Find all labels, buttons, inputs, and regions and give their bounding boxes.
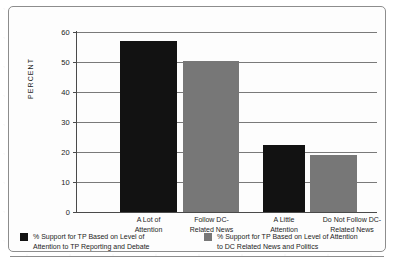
legend-entry-dc-news: % Support for TP Based on Level of Atten… xyxy=(204,232,394,251)
legend-swatch-black-icon xyxy=(20,233,28,241)
bar-do-not-follow-dc-related-news[interactable] xyxy=(310,155,357,212)
y-tick-label-20: 20 xyxy=(61,148,70,157)
legend-divider xyxy=(10,256,384,257)
gridline-60: 60 xyxy=(77,32,377,33)
tick-mark-60 xyxy=(73,32,77,33)
gridline-0-baseline: 0 xyxy=(77,212,377,213)
legend-label-tp-reporting: % Support for TP Based on Level of Atten… xyxy=(33,232,150,251)
legend-label-dc-news: % Support for TP Based on Level of Atten… xyxy=(217,232,358,251)
bar-follow-dc-related-news[interactable] xyxy=(183,61,239,213)
legend-swatch-gray-icon xyxy=(204,233,212,241)
tick-mark-10 xyxy=(73,182,77,183)
bar-a-little-attention[interactable] xyxy=(263,145,305,213)
tick-mark-30 xyxy=(73,122,77,123)
tick-mark-20 xyxy=(73,152,77,153)
legend-entry-tp-reporting: % Support for TP Based on Level of Atten… xyxy=(20,232,200,251)
y-tick-label-10: 10 xyxy=(61,178,70,187)
y-tick-label-50: 50 xyxy=(61,58,70,67)
y-tick-label-40: 40 xyxy=(61,88,70,97)
tick-mark-0 xyxy=(73,212,77,213)
y-tick-label-0: 0 xyxy=(66,208,70,217)
tick-mark-50 xyxy=(73,62,77,63)
y-tick-label-30: 30 xyxy=(61,118,70,127)
tick-mark-40 xyxy=(73,92,77,93)
bar-a-lot-of-attention[interactable] xyxy=(120,41,177,212)
y-axis-title: PERCENT xyxy=(27,58,34,99)
plot-area: 60 50 40 30 20 10 0 A xyxy=(77,32,377,212)
y-tick-label-60: 60 xyxy=(61,28,70,37)
chart-legend: % Support for TP Based on Level of Atten… xyxy=(8,232,386,258)
figure-frame: PERCENT 60 50 40 30 20 10 0 xyxy=(8,6,386,252)
